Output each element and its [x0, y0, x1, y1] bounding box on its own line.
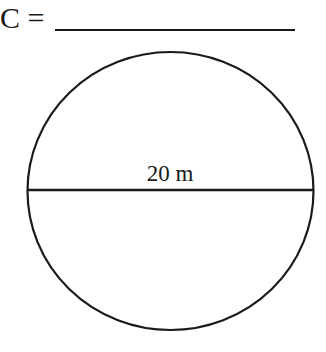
diameter-label: 20 m [147, 161, 194, 186]
circle-figure: 20 m [0, 0, 326, 352]
